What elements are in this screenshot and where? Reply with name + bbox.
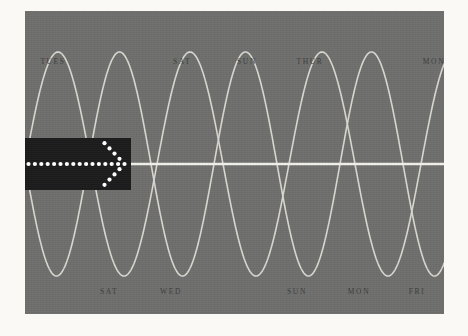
arrow-head-dot [107, 178, 111, 182]
arrow-shaft-dot [58, 162, 62, 166]
arrow-head-dot [102, 183, 106, 187]
trough-label-3: MON [348, 287, 370, 296]
arrow-head-dot [102, 141, 106, 145]
arrow-shaft-dot [71, 162, 75, 166]
arrow-shaft-dot [39, 162, 43, 166]
arrow-shaft-dot [46, 162, 50, 166]
crest-label-4: MON [423, 57, 444, 66]
arrow-shaft-dot [103, 162, 107, 166]
arrow-tip-dot [122, 162, 126, 166]
crest-label-1: SAT [173, 57, 191, 66]
arrow-head-dot [117, 157, 121, 161]
trough-label-1: WED [160, 287, 182, 296]
trough-label-0: SAT [100, 287, 118, 296]
arrow-shaft-dot [33, 162, 37, 166]
arrow-shaft-dot [110, 162, 114, 166]
arrow-head-dot [117, 167, 121, 171]
arrow-shaft-dot [90, 162, 94, 166]
arrow-shaft-dot [65, 162, 69, 166]
crest-label-3: THUR [297, 57, 324, 66]
figure-canvas: TUESSATSUNTHURMON SATWEDSUNMONFRI [0, 0, 468, 336]
arrow-shaft-dot [116, 162, 120, 166]
arrow-shaft-dot [78, 162, 82, 166]
arrow-shaft-dot [97, 162, 101, 166]
arrow-shaft-dot [84, 162, 88, 166]
crest-label-0: TUES [40, 57, 65, 66]
arrow-shaft-dot [52, 162, 56, 166]
crest-label-2: SUN [237, 57, 257, 66]
arrow-dot-group [26, 141, 126, 187]
arrow-head-dot [112, 172, 116, 176]
trough-label-4: FRI [409, 287, 425, 296]
arrow-overlay-panel [25, 138, 131, 190]
arrow-head-dot [107, 146, 111, 150]
trough-label-2: SUN [287, 287, 307, 296]
arrow-right-icon [25, 138, 131, 190]
arrow-head-dot [112, 152, 116, 156]
arrow-shaft-dot [26, 162, 30, 166]
